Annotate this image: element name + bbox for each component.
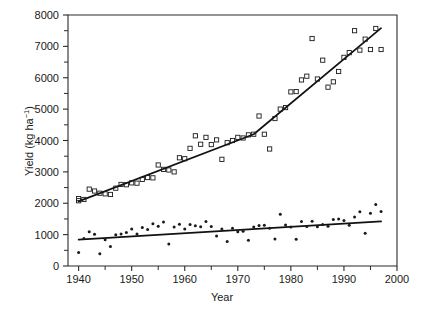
data-point-dot <box>263 224 266 227</box>
data-point-square <box>108 192 112 196</box>
data-point-dot <box>167 243 170 246</box>
x-tick-label: 1980 <box>279 273 303 285</box>
series-open-squares <box>77 26 384 202</box>
data-point-square <box>368 47 372 51</box>
upper-piecewise-trend <box>79 28 381 201</box>
y-tick-label: 7000 <box>35 40 59 52</box>
x-tick-label: 1940 <box>66 273 90 285</box>
data-point-dot <box>369 212 372 215</box>
data-point-dot <box>364 232 367 235</box>
data-point-square <box>310 36 314 40</box>
y-tick-label: 3000 <box>35 166 59 178</box>
data-point-dot <box>342 219 345 222</box>
data-point-dot <box>242 230 245 233</box>
data-point-square <box>193 134 197 138</box>
x-tick-label: 1970 <box>226 273 250 285</box>
data-point-square <box>289 90 293 94</box>
data-point-dot <box>284 223 287 226</box>
data-point-dot <box>178 223 181 226</box>
data-point-square <box>214 138 218 142</box>
data-point-square <box>352 29 356 33</box>
data-point-square <box>326 85 330 89</box>
data-point-square <box>204 135 208 139</box>
data-point-dot <box>348 224 351 227</box>
data-point-dot <box>162 221 165 224</box>
data-point-dot <box>226 240 229 243</box>
data-point-dot <box>146 228 149 231</box>
data-point-dot <box>204 220 207 223</box>
x-tick-label: 1960 <box>172 273 196 285</box>
data-point-square <box>209 142 213 146</box>
lower-linear-trend <box>79 221 381 239</box>
data-point-square <box>294 89 298 93</box>
data-point-square <box>172 170 176 174</box>
x-tick-label: 2000 <box>385 273 409 285</box>
data-point-dot <box>109 245 112 248</box>
data-point-square <box>135 181 139 185</box>
data-point-dot <box>332 218 335 221</box>
data-point-dot <box>104 238 107 241</box>
data-point-square <box>358 48 362 52</box>
data-point-dot <box>358 210 361 213</box>
y-tick-label: 6000 <box>35 72 59 84</box>
trend-lines-group <box>79 28 381 239</box>
data-point-dot <box>327 225 330 228</box>
data-point-dot <box>295 238 298 241</box>
data-point-dot <box>141 226 144 229</box>
y-tick-label: 2000 <box>35 197 59 209</box>
data-point-dot <box>273 238 276 241</box>
y-axis-tick-labels: 010002000300040005000600070008000 <box>35 9 59 272</box>
data-point-dot <box>321 223 324 226</box>
data-point-dot <box>125 231 128 234</box>
data-point-square <box>220 157 224 161</box>
data-point-square <box>374 26 378 30</box>
data-point-dot <box>183 227 186 230</box>
data-point-dot <box>252 226 255 229</box>
data-point-dot <box>194 224 197 227</box>
data-point-dot <box>337 217 340 220</box>
data-point-square <box>167 168 171 172</box>
data-point-square <box>257 114 261 118</box>
data-point-square <box>151 176 155 180</box>
x-axis-ticks <box>79 266 397 271</box>
y-tick-label: 1000 <box>35 229 59 241</box>
x-axis-tick-labels: 1940195019601970198019902000 <box>66 273 409 285</box>
yield-vs-year-scatter-chart: 1940195019601970198019902000 01000200030… <box>0 0 424 317</box>
x-tick-label: 1990 <box>332 273 356 285</box>
data-point-dot <box>114 233 117 236</box>
y-axis-title-base: Yield (kg ha <box>23 117 35 176</box>
data-point-dot <box>279 213 282 216</box>
data-point-dot <box>93 233 96 236</box>
data-point-square <box>87 187 91 191</box>
y-axis-title-superscript: −1 <box>22 110 31 119</box>
data-point-dot <box>77 251 80 254</box>
data-point-dot <box>135 232 138 235</box>
data-point-square <box>177 156 181 160</box>
data-point-dot <box>98 252 101 255</box>
data-point-dot <box>151 222 154 225</box>
data-point-dot <box>289 226 292 229</box>
data-point-dot <box>199 225 202 228</box>
data-point-square <box>337 69 341 73</box>
data-point-dot <box>173 226 176 229</box>
data-point-dot <box>210 225 213 228</box>
y-tick-label: 4000 <box>35 135 59 147</box>
data-point-dot <box>353 216 356 219</box>
data-point-square <box>188 146 192 150</box>
data-point-square <box>379 47 383 51</box>
y-tick-label: 5000 <box>35 103 59 115</box>
data-point-dot <box>300 220 303 223</box>
y-tick-label: 8000 <box>35 9 59 21</box>
data-point-dot <box>157 225 160 228</box>
data-point-square <box>199 142 203 146</box>
data-point-square <box>321 58 325 62</box>
data-point-dot <box>215 234 218 237</box>
data-point-square <box>268 147 272 151</box>
y-tick-label: 0 <box>53 260 59 272</box>
data-point-dot <box>311 220 314 223</box>
data-point-square <box>156 163 160 167</box>
data-point-square <box>299 78 303 82</box>
y-axis-title-tail: ) <box>23 106 35 110</box>
series-filled-dots <box>77 203 382 255</box>
x-axis-title: Year <box>211 291 234 303</box>
